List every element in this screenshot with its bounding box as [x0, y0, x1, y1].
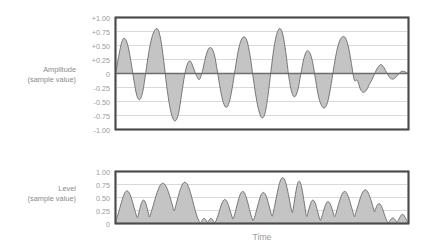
level-tick-label: 0.75 — [96, 181, 110, 190]
level-axis-title: Level (sample value) — [28, 184, 77, 203]
amplitude-y-axis: +1.00 +0.75 +0.50 +0.25 0 -0.25 -0.50 -0… — [92, 14, 110, 135]
level-axis-title-line1: Level — [58, 184, 76, 193]
amplitude-chart: +1.00 +0.75 +0.50 +0.25 0 -0.25 -0.50 -0… — [28, 14, 409, 135]
amplitude-tick-label: -0.50 — [94, 98, 110, 107]
level-tick-label: 0 — [106, 220, 110, 229]
amplitude-axis-title-line2: (sample value) — [28, 75, 76, 84]
level-tick-label: 0.25 — [96, 207, 110, 216]
amplitude-tick-label: +0.75 — [92, 28, 110, 37]
amplitude-tick-label: -1.00 — [94, 126, 110, 135]
amplitude-tick-label: +0.50 — [92, 42, 110, 51]
level-chart: 1.00 0.75 0.50 0.25 0 Level (sample valu… — [28, 168, 409, 229]
amplitude-tick-label: -0.25 — [94, 84, 110, 93]
amplitude-axis-title-line1: Amplitude — [43, 65, 76, 74]
amplitude-axis-title: Amplitude (sample value) — [28, 65, 76, 84]
level-tick-label: 0.50 — [96, 194, 110, 203]
x-axis-label: Time — [253, 232, 272, 242]
amplitude-tick-label: 0 — [106, 70, 110, 79]
amplitude-tick-label: +1.00 — [92, 14, 110, 23]
amplitude-tick-label: -0.75 — [94, 112, 110, 121]
waveform-figure: +1.00 +0.75 +0.50 +0.25 0 -0.25 -0.50 -0… — [0, 0, 423, 248]
level-tick-label: 1.00 — [96, 168, 110, 177]
level-axis-title-line2: (sample value) — [28, 194, 76, 203]
amplitude-tick-label: +0.25 — [92, 56, 110, 65]
level-y-axis: 1.00 0.75 0.50 0.25 0 — [96, 168, 110, 229]
